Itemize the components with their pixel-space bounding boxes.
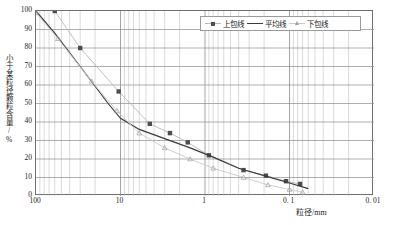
y-tick-label: 80 xyxy=(0,43,32,51)
y-tick-label: 100 xyxy=(0,6,32,14)
x-tick-label: 100 xyxy=(29,197,40,205)
data-point-0 xyxy=(168,131,172,135)
data-point-0 xyxy=(117,89,121,93)
legend-label-lower: 下包线 xyxy=(307,18,328,29)
y-tick-label: 60 xyxy=(0,80,32,88)
y-tick-label: 70 xyxy=(0,62,32,70)
y-tick-label: 90 xyxy=(0,25,32,33)
legend-item-average[interactable]: 平均线 xyxy=(247,18,286,29)
series-line-1 xyxy=(36,11,308,189)
data-point-0 xyxy=(148,122,152,126)
chart-legend: 上包线 平均线 下包线 xyxy=(200,16,361,31)
y-tick-label: 30 xyxy=(0,136,32,144)
y-tick-label: 50 xyxy=(0,99,32,107)
data-point-0 xyxy=(78,46,82,50)
legend-label-average: 平均线 xyxy=(265,18,286,29)
x-tick-label: 0. 01 xyxy=(366,197,381,205)
series-line-2 xyxy=(36,13,303,192)
legend-item-lower[interactable]: 下包线 xyxy=(289,18,328,29)
legend-swatch-line-icon xyxy=(247,19,263,28)
chart-root: 小于某粒径颗粒含量/% 0102030405060708090100 上包线 平… xyxy=(0,0,397,225)
legend-swatch-square-icon xyxy=(205,19,221,28)
x-tick-label: 10 xyxy=(116,197,124,205)
chart-canvas xyxy=(36,11,374,196)
data-point-0 xyxy=(53,11,57,13)
y-tick-label: 0 xyxy=(0,191,32,199)
legend-swatch-triangle-icon xyxy=(289,19,305,28)
series-line-0 xyxy=(55,11,300,184)
y-tick-label: 20 xyxy=(0,154,32,162)
y-tick-label: 40 xyxy=(0,117,32,125)
legend-item-upper[interactable]: 上包线 xyxy=(205,18,244,29)
x-tick-label: 0. 1 xyxy=(283,197,294,205)
legend-label-upper: 上包线 xyxy=(223,18,244,29)
x-tick-label: 1 xyxy=(202,197,206,205)
y-axis-tick-labels: 0102030405060708090100 xyxy=(0,0,32,225)
x-axis-title: 粒径/mm xyxy=(296,206,327,217)
y-tick-label: 10 xyxy=(0,173,32,181)
plot-area xyxy=(35,10,373,195)
data-point-0 xyxy=(186,140,190,144)
